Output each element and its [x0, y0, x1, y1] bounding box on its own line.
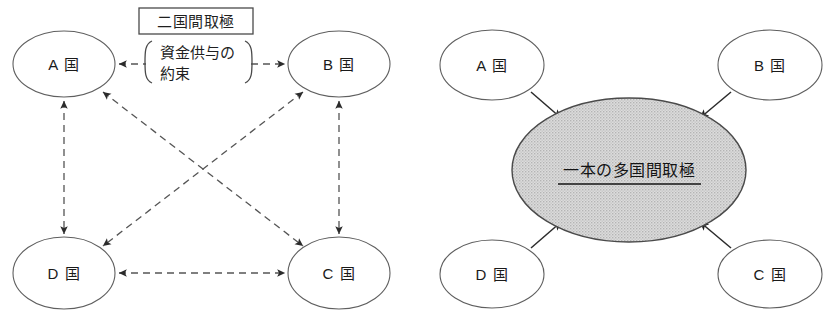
diagram-figure: A 国 B 国 C 国 D 国 二国間取極	[0, 0, 829, 330]
node-a-multi-label: A 国	[476, 57, 507, 74]
panel-multilateral: 一本の多国間取極 A 国 B 国 C 国 D	[440, 30, 822, 308]
funding-promise-line2: 約束	[160, 65, 190, 82]
hub-label: 一本の多国間取極	[563, 162, 695, 179]
funding-promise-annotation: 資金供与の 約束	[145, 40, 252, 84]
node-country-d[interactable]: D 国	[13, 237, 115, 309]
bilateral-edges	[64, 64, 339, 273]
node-country-b-multi[interactable]: B 国	[718, 30, 822, 100]
node-c-label: C 国	[323, 265, 356, 282]
node-d-label: D 国	[48, 265, 81, 282]
panel-bilateral: A 国 B 国 C 国 D 国 二国間取極	[13, 8, 390, 309]
node-b-multi-label: B 国	[754, 57, 786, 74]
multilateral-hub[interactable]: 一本の多国間取極	[512, 98, 746, 242]
node-country-a[interactable]: A 国	[13, 31, 115, 97]
node-country-c[interactable]: C 国	[288, 237, 390, 309]
edge-c-hub	[700, 222, 731, 248]
node-country-d-multi[interactable]: D 国	[440, 240, 544, 308]
node-c-multi-label: C 国	[754, 266, 787, 283]
diagram-canvas: A 国 B 国 C 国 D 国 二国間取極	[0, 0, 829, 330]
node-b-label: B 国	[323, 56, 355, 73]
node-country-a-multi[interactable]: A 国	[440, 30, 544, 100]
funding-promise-line1: 資金供与の	[160, 44, 235, 61]
node-d-multi-label: D 国	[476, 266, 509, 283]
bilateral-title-box-label: 二国間取極	[157, 13, 235, 30]
node-country-c-multi[interactable]: C 国	[718, 240, 822, 308]
edge-b-hub	[700, 92, 731, 118]
bilateral-title-box: 二国間取極	[139, 8, 253, 34]
node-a-label: A 国	[48, 56, 79, 73]
node-country-b[interactable]: B 国	[288, 31, 390, 97]
